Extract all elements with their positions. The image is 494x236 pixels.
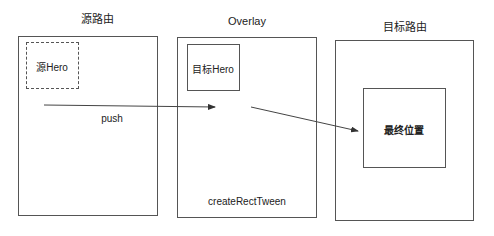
arrows-layer [0, 0, 494, 236]
push-arrow [44, 105, 215, 107]
tween-arrow [251, 107, 358, 131]
